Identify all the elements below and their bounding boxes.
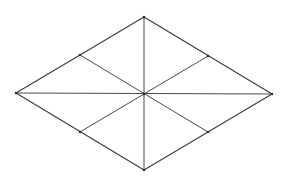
vertex-center <box>143 93 145 95</box>
vertex-top <box>143 16 145 18</box>
diagram-canvas <box>0 0 291 182</box>
vertex-mid-lower-left <box>79 131 81 133</box>
vertex-right <box>271 93 273 95</box>
rhombus-diagram <box>0 0 291 182</box>
vertex-bottom <box>143 169 145 171</box>
vertex-mid-upper-left <box>79 54 81 56</box>
vertex-mid-lower-right <box>207 131 209 133</box>
vertex-left <box>15 92 17 94</box>
vertex-mid-upper-right <box>207 55 209 57</box>
